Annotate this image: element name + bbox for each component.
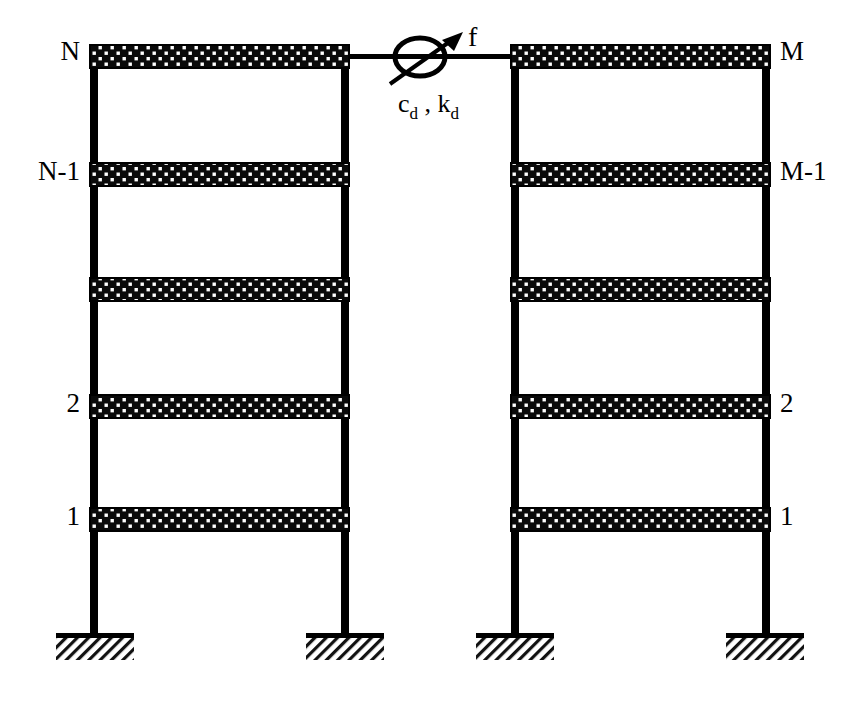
support-hatch (56, 638, 134, 660)
fixed-supports (56, 633, 804, 660)
storey-label-left-N-1: N-1 (38, 156, 80, 186)
damper-properties-label: cd , kd (398, 89, 460, 123)
support-hatch (306, 638, 384, 660)
column-left-inner (341, 45, 349, 637)
slab-left-3 (90, 278, 349, 301)
storey-label-right-2: 2 (780, 388, 794, 418)
damper-force-label: f (468, 21, 478, 52)
support-plate (306, 633, 384, 638)
fixed-support-1 (56, 633, 134, 660)
support-hatch (726, 638, 804, 660)
storey-label-left-1: 1 (67, 501, 81, 531)
fixed-support-3 (476, 633, 554, 660)
damper-label-separator: , (418, 89, 438, 118)
support-plate (476, 633, 554, 638)
slab-right-1 (511, 508, 770, 531)
left-frame-storey-labels: N N-1 2 1 (38, 36, 80, 531)
fixed-support-2 (306, 633, 384, 660)
slab-right-2 (511, 395, 770, 418)
storey-label-right-M-1: M-1 (780, 156, 827, 186)
left-frame-slabs (90, 45, 349, 531)
storey-label-left-2: 2 (67, 388, 81, 418)
diagram-canvas: N N-1 2 1 M M-1 (0, 0, 850, 701)
slab-right-3 (511, 278, 770, 301)
support-hatch (476, 638, 554, 660)
slab-left-4 (90, 163, 349, 186)
column-right-inner (511, 45, 519, 637)
right-frame-columns (511, 45, 770, 637)
damper-c-symbol: c (398, 89, 410, 118)
left-frame-columns (90, 45, 349, 637)
storey-label-left-N: N (61, 36, 81, 66)
damper-k-subscript: d (451, 104, 460, 123)
storey-label-right-M: M (780, 36, 804, 66)
column-right-outer (762, 45, 770, 637)
left-frame: N N-1 2 1 (38, 36, 349, 637)
support-plate (726, 633, 804, 638)
fixed-support-4 (726, 633, 804, 660)
slab-left-2 (90, 395, 349, 418)
slab-right-5 (511, 45, 770, 68)
slab-left-5 (90, 45, 349, 68)
structural-diagram: N N-1 2 1 M M-1 (0, 0, 850, 701)
damper-k-symbol: k (438, 89, 451, 118)
slab-left-1 (90, 508, 349, 531)
right-frame: M M-1 2 1 (511, 36, 827, 637)
coupling-damper-assembly: f cd , kd (349, 21, 512, 123)
right-frame-slabs (511, 45, 770, 531)
right-frame-storey-labels: M M-1 2 1 (780, 36, 827, 531)
storey-label-right-1: 1 (780, 501, 794, 531)
slab-right-4 (511, 163, 770, 186)
column-left-outer (90, 45, 98, 637)
support-plate (56, 633, 134, 638)
